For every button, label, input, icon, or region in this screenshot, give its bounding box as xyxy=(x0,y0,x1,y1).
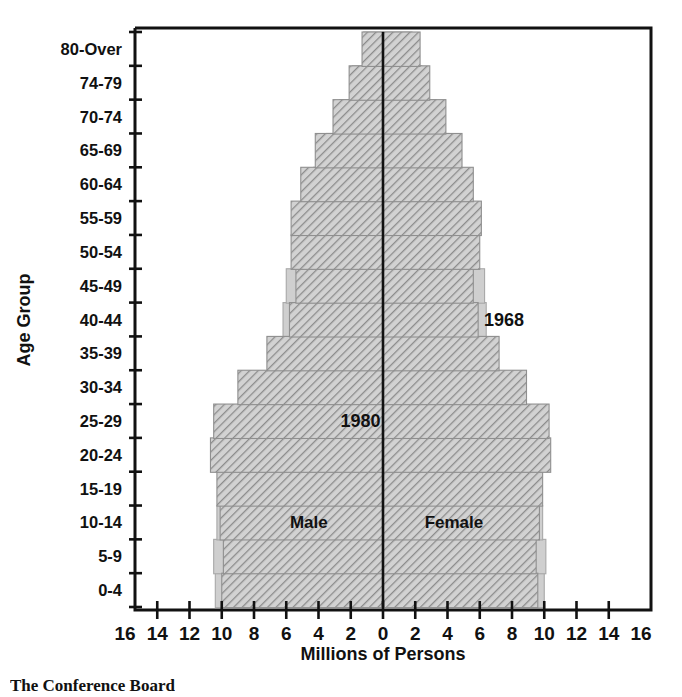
bar-female-65-69 xyxy=(383,133,462,167)
y-tick-label-5-9: 5-9 xyxy=(98,547,122,565)
y-tick-label-60-64: 60-64 xyxy=(80,175,123,193)
x-tick-label-7: 2 xyxy=(345,623,356,644)
x-axis-tick-labels: 1614121086420246810121416 xyxy=(114,623,651,644)
bar-female-0-4 xyxy=(383,573,538,607)
y-tick-label-40-44: 40-44 xyxy=(80,311,123,329)
annotation-1980: 1980 xyxy=(340,411,380,431)
bar-female-15-19 xyxy=(383,472,543,506)
y-tick-label-15-19: 15-19 xyxy=(80,480,122,498)
bar-male-35-39 xyxy=(267,336,383,370)
x-tick-label-11: 6 xyxy=(474,623,485,644)
y-tick-label-30-34: 30-34 xyxy=(80,378,123,396)
bar-male-60-64 xyxy=(301,167,383,201)
x-tick-label-10: 4 xyxy=(442,623,453,644)
y-tick-label-74-79: 74-79 xyxy=(80,74,122,92)
y-tick-label-35-39: 35-39 xyxy=(80,344,122,362)
bar-male-80-Over xyxy=(362,32,383,66)
bar-male-74-79 xyxy=(349,66,383,100)
bar-male-5-9 xyxy=(223,539,383,573)
figure-caption: The Conference Board xyxy=(10,676,175,697)
bar-female-70-74 xyxy=(383,100,446,134)
bar-male-55-59 xyxy=(291,201,383,235)
y-tick-label-65-69: 65-69 xyxy=(80,141,122,159)
bar-male-50-54 xyxy=(291,235,383,269)
x-tick-label-13: 10 xyxy=(534,623,555,644)
bar-female-35-39 xyxy=(383,336,499,370)
bar-male-15-19 xyxy=(217,472,383,506)
y-axis-title: Age Group xyxy=(14,273,34,366)
bar-female-5-9 xyxy=(383,539,536,573)
bar-female-40-44 xyxy=(383,303,478,337)
x-tick-label-1: 14 xyxy=(147,623,169,644)
x-tick-label-16: 16 xyxy=(630,623,651,644)
bar-male-45-49 xyxy=(296,269,383,303)
bar-female-30-34 xyxy=(383,370,527,404)
bar-female-74-79 xyxy=(383,66,430,100)
bar-female-80-Over xyxy=(383,32,420,66)
bar-male-0-4 xyxy=(222,573,383,607)
bar-female-20-24 xyxy=(383,438,551,472)
y-tick-label-50-54: 50-54 xyxy=(80,243,123,261)
bar-male-70-74 xyxy=(333,100,383,134)
bar-male-65-69 xyxy=(315,133,383,167)
x-tick-label-6: 4 xyxy=(313,623,324,644)
annotation-female: Female xyxy=(425,513,484,532)
y-tick-label-0-4: 0-4 xyxy=(98,581,123,599)
x-tick-label-12: 8 xyxy=(507,623,518,644)
x-tick-label-2: 12 xyxy=(179,623,200,644)
annotation-1968: 1968 xyxy=(484,310,524,330)
bar-male-40-44 xyxy=(289,303,383,337)
bar-female-25-29 xyxy=(383,404,549,438)
x-tick-label-0: 16 xyxy=(114,623,135,644)
y-tick-label-10-14: 10-14 xyxy=(80,513,123,531)
bar-male-20-24 xyxy=(210,438,383,472)
population-pyramid-figure: 0-45-910-1415-1920-2425-2930-3435-3940-4… xyxy=(0,0,682,697)
x-tick-label-15: 14 xyxy=(598,623,620,644)
bar-female-45-49 xyxy=(383,269,473,303)
y-tick-label-25-29: 25-29 xyxy=(80,412,122,430)
x-axis-title: Millions of Persons xyxy=(300,644,465,664)
bar-female-60-64 xyxy=(383,167,473,201)
bar-male-30-34 xyxy=(238,370,383,404)
x-tick-label-14: 12 xyxy=(566,623,587,644)
y-tick-label-55-59: 55-59 xyxy=(80,209,122,227)
x-tick-label-5: 6 xyxy=(281,623,292,644)
bar-female-50-54 xyxy=(383,235,480,269)
x-tick-label-4: 8 xyxy=(249,623,260,644)
x-tick-label-3: 10 xyxy=(211,623,232,644)
y-tick-label-80-Over: 80-Over xyxy=(61,40,123,58)
y-tick-label-45-49: 45-49 xyxy=(80,277,122,295)
annotation-male: Male xyxy=(290,513,328,532)
y-tick-label-70-74: 70-74 xyxy=(80,108,123,126)
y-tick-label-20-24: 20-24 xyxy=(80,446,123,464)
x-tick-label-9: 2 xyxy=(410,623,421,644)
bar-female-55-59 xyxy=(383,201,481,235)
x-tick-label-8: 0 xyxy=(378,623,389,644)
